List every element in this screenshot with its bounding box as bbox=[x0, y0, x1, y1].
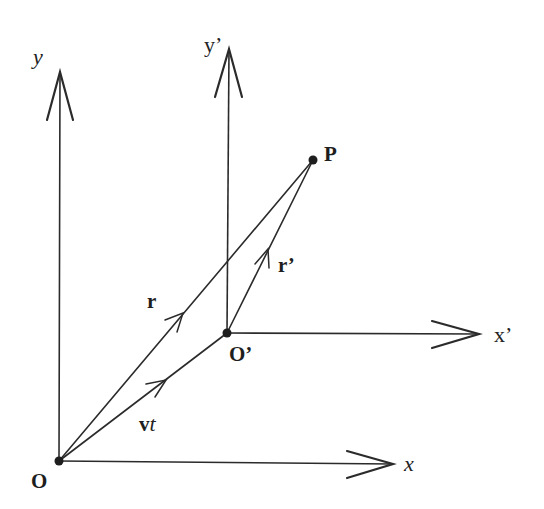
x-prime-axis-label: x’ bbox=[494, 322, 512, 347]
vector-vt-label: vt bbox=[139, 411, 157, 436]
x-axis bbox=[59, 451, 393, 478]
vector-vt-label-t: t bbox=[150, 411, 157, 436]
x-prime-axis bbox=[227, 321, 479, 348]
y-axis-label: y bbox=[31, 44, 43, 69]
vector-vt-label-v: v bbox=[139, 412, 150, 436]
y-axis bbox=[47, 72, 73, 461]
vector-vt bbox=[59, 333, 227, 461]
galilean-frames-diagram: y x y’ x’ O O’ P r r’ vt bbox=[0, 0, 544, 509]
origin-O-label: O bbox=[31, 469, 47, 493]
vector-r-prime-label: r’ bbox=[278, 253, 295, 277]
y-prime-axis bbox=[215, 49, 242, 333]
point-P-label: P bbox=[324, 142, 337, 166]
vector-r-label: r bbox=[147, 289, 156, 313]
vector-r bbox=[59, 160, 313, 461]
x-axis-label: x bbox=[403, 451, 414, 476]
vector-r-direction-arrow-icon bbox=[165, 313, 183, 332]
origin-O-point bbox=[55, 457, 64, 466]
point-P bbox=[309, 156, 318, 165]
y-prime-axis-label: y’ bbox=[204, 32, 222, 57]
origin-O-prime-label: O’ bbox=[229, 342, 252, 366]
origin-O-prime-point bbox=[223, 329, 232, 338]
